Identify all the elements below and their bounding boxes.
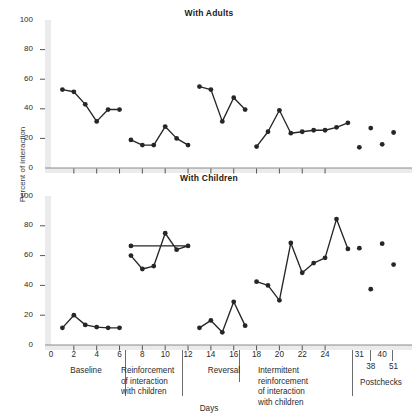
data-point	[231, 95, 236, 100]
data-point	[208, 87, 213, 92]
data-point	[288, 131, 293, 136]
data-point	[231, 299, 236, 304]
data-point	[197, 325, 202, 330]
data-point	[380, 241, 385, 246]
series-line-intermittent-reinforcement-of-interaction-with-children	[257, 110, 348, 146]
data-point	[106, 325, 111, 330]
data-point	[208, 318, 213, 323]
data-point	[368, 126, 373, 131]
data-point	[380, 142, 385, 147]
data-point	[254, 279, 259, 284]
y-tick-label: 60	[7, 250, 33, 259]
data-point	[311, 128, 316, 133]
data-point	[288, 241, 293, 246]
series-line-reversal	[199, 302, 245, 333]
y-tick-label: 0	[7, 163, 33, 172]
data-point	[243, 107, 248, 112]
data-point	[357, 145, 362, 150]
data-point	[277, 108, 282, 113]
data-point	[391, 262, 396, 267]
series-line-baseline	[62, 315, 119, 328]
phase-label-reinforcement: Reinforcement of interaction with childr…	[121, 366, 193, 398]
phase-label-reversal: Reversal	[193, 366, 255, 377]
y-tick-label: 100	[7, 191, 33, 200]
y-tick-label: 40	[7, 280, 33, 289]
data-point	[243, 323, 248, 328]
data-point	[254, 144, 259, 149]
y-tick-label: 20	[7, 133, 33, 142]
data-point	[129, 253, 134, 258]
data-point	[266, 283, 271, 288]
series-line-reinforcement-of-interaction-with-children	[131, 127, 188, 146]
data-point	[220, 330, 225, 335]
data-point	[277, 298, 282, 303]
data-point	[186, 143, 191, 148]
y-tick-label: 60	[7, 74, 33, 83]
y-axis-band-1	[45, 196, 51, 346]
postcheck-tick-separator	[392, 350, 393, 361]
data-point	[151, 143, 156, 148]
data-point	[391, 130, 396, 135]
data-point	[300, 129, 305, 134]
data-point	[346, 120, 351, 125]
series-line-reinforcement-of-interaction-with-children	[131, 233, 188, 269]
data-point	[323, 255, 328, 260]
data-point	[163, 231, 168, 236]
data-point	[129, 244, 134, 249]
phase-label-postchecks: Postchecks	[347, 378, 415, 389]
x-axis-band-0	[45, 168, 412, 173]
y-tick-label: 40	[7, 103, 33, 112]
postcheck-tick-separator	[370, 350, 371, 361]
data-point	[106, 107, 111, 112]
y-tick-label: 100	[7, 15, 33, 24]
data-point	[94, 325, 99, 330]
data-point	[117, 325, 122, 330]
data-point	[186, 244, 191, 249]
data-point	[323, 128, 328, 133]
data-point	[266, 129, 271, 134]
data-point	[300, 270, 305, 275]
data-point	[151, 264, 156, 269]
data-point	[346, 246, 351, 251]
data-point	[60, 87, 65, 92]
figure-root: Percent of interaction With Adults With …	[0, 0, 418, 418]
series-line-baseline	[62, 90, 119, 122]
data-point	[83, 322, 88, 327]
y-tick-label: 20	[7, 310, 33, 319]
data-point	[368, 287, 373, 292]
data-point	[357, 246, 362, 251]
data-point	[174, 136, 179, 141]
data-point	[83, 102, 88, 107]
x-tick-label-postcheck: 51	[379, 362, 409, 371]
data-point	[94, 119, 99, 124]
y-tick-label: 0	[7, 340, 33, 349]
y-tick-label: 80	[7, 44, 33, 53]
y-tick-label: 80	[7, 220, 33, 229]
data-point	[71, 313, 76, 318]
x-tick-label: 24	[310, 350, 340, 359]
phase-label-Baseline: Baseline	[58, 366, 114, 377]
phase-label-intermittent: Intermittent reinforcement of interactio…	[258, 366, 336, 408]
data-point	[163, 124, 168, 129]
data-point	[60, 325, 65, 330]
x-axis-title: Days	[0, 404, 418, 413]
data-point	[140, 267, 145, 272]
phase-separator	[352, 350, 353, 396]
data-point	[334, 125, 339, 130]
data-point	[334, 217, 339, 222]
data-point	[117, 107, 122, 112]
data-point	[129, 137, 134, 142]
data-point	[140, 143, 145, 148]
data-point	[220, 119, 225, 124]
series-line-reversal	[199, 87, 245, 122]
data-point	[174, 247, 179, 252]
data-point	[311, 261, 316, 266]
data-point	[197, 84, 202, 89]
y-axis-band-0	[45, 20, 51, 169]
series-line-intermittent-reinforcement-of-interaction-with-children	[257, 219, 348, 300]
data-point	[71, 89, 76, 94]
